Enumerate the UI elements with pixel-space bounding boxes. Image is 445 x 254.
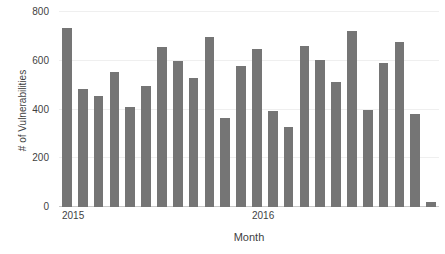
bar [252, 49, 262, 207]
bar [189, 78, 199, 207]
bar [78, 89, 88, 207]
bar [395, 42, 405, 207]
bar [379, 63, 389, 207]
bar [125, 107, 135, 207]
y-axis-tick-label: 600 [3, 56, 49, 66]
x-axis-title: Month [59, 231, 439, 243]
x-axis-tick-label: 2016 [252, 210, 274, 222]
bar [236, 66, 246, 207]
bar [205, 37, 215, 207]
bar [268, 111, 278, 207]
y-axis-tick-label: 200 [3, 153, 49, 163]
bar [363, 110, 373, 207]
bar [94, 96, 104, 207]
bar [300, 46, 310, 207]
y-axis-tick-label: 400 [3, 105, 49, 115]
bar [410, 114, 420, 207]
bar [284, 127, 294, 207]
plot-area [59, 12, 439, 207]
bar [157, 47, 167, 207]
bar [331, 82, 341, 207]
bar [426, 202, 436, 207]
bar [347, 31, 357, 207]
y-axis-tick-label: 800 [3, 7, 49, 17]
bar [141, 86, 151, 207]
bar [315, 60, 325, 207]
x-axis-tick-label: 2015 [62, 210, 84, 222]
bar [173, 61, 183, 207]
vulnerabilities-bar-chart: # of Vulnerabilities 0200400600800 20152… [0, 0, 445, 254]
y-axis-tick-labels: 0200400600800 [0, 12, 55, 207]
x-axis-tick-labels: 20152016 [59, 210, 439, 226]
y-axis-tick-label: 0 [3, 202, 49, 212]
bar [220, 118, 230, 207]
bar [62, 28, 72, 207]
bar-series [59, 12, 439, 207]
bar [110, 72, 120, 207]
